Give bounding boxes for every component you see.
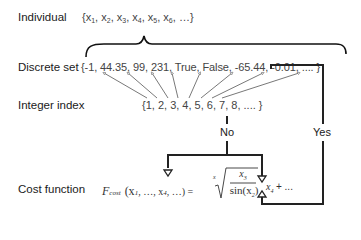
arrow-down-x4-arg bbox=[164, 170, 172, 176]
arrow-down-x4-term bbox=[258, 176, 266, 182]
numerator: x3 bbox=[228, 168, 258, 181]
decision-yes-label: Yes bbox=[312, 126, 332, 138]
mapping-arrows bbox=[104, 73, 299, 98]
formula-x4-term: x4 + ... bbox=[266, 181, 293, 194]
decision-no-label: No bbox=[219, 126, 235, 138]
formula-tail: + ... bbox=[276, 181, 293, 192]
root-index: x bbox=[213, 174, 216, 180]
fraction: x3 bbox=[228, 168, 258, 181]
curly-brace bbox=[86, 36, 346, 57]
cost-function-formula: Fcost (x1, …, x4, …) = bbox=[102, 181, 193, 199]
no-branch-line bbox=[168, 116, 262, 176]
denominator: sin(x2) bbox=[226, 184, 262, 198]
